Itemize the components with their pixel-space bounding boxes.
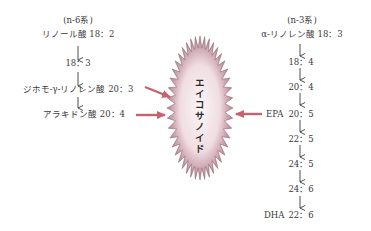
n3-step-24-6: 24：6	[288, 184, 313, 194]
n6-header: (n-6系)	[63, 15, 92, 25]
n3-step-20-4: 20：4	[288, 82, 313, 92]
n6-step-linoleic: リノール酸 18：2	[42, 29, 115, 39]
n3-dha-label: DHA	[264, 210, 284, 220]
n3-step-22-6: 22：6	[288, 210, 313, 220]
n6-step-arachidonic: アラキドン酸 20：4	[43, 109, 125, 119]
n3-step-22-5: 22：5	[288, 134, 313, 144]
n3-epa-label: EPA	[266, 109, 283, 119]
n3-step-alpha-linolenic: α-リノレン酸 18：3	[261, 29, 343, 39]
n3-step-24-5: 24：5	[288, 159, 313, 169]
n6-step-dgla: ジホモ-γ-リノレン酸 20：3	[23, 84, 134, 94]
n3-step-18-4: 18：4	[288, 57, 313, 67]
dgla-to-eicosanoid-arrow	[145, 87, 170, 97]
n3-step-20-5: 20：5	[288, 109, 313, 119]
eicosanoid-label: エイコサノイド	[194, 78, 206, 155]
n6-step-18-3: 18：3	[65, 58, 90, 68]
n3-header: (n-3系)	[287, 15, 316, 25]
